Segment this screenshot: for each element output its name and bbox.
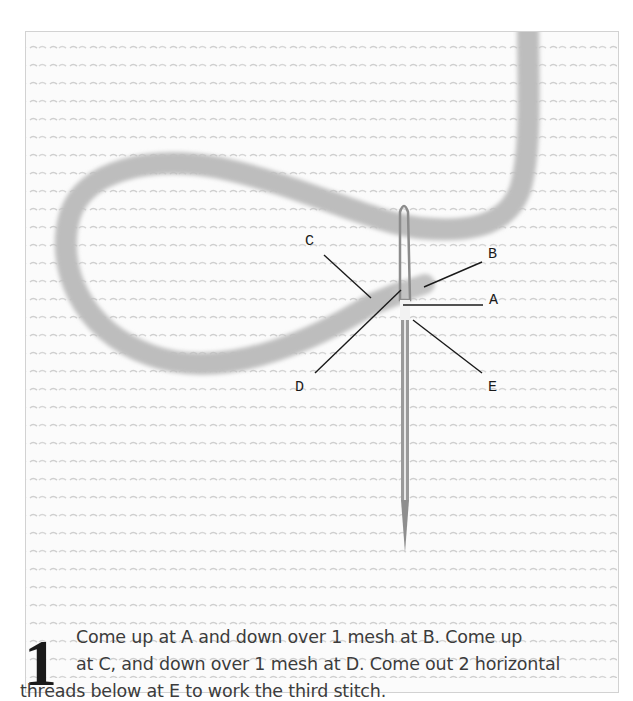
label-b: B — [488, 247, 497, 262]
label-e: E — [488, 380, 497, 395]
instruction-line-1: Come up at A and down over 1 mesh at B. … — [20, 624, 610, 651]
label-a: A — [489, 293, 498, 308]
instruction-line-3: threads below at E to work the third sti… — [20, 678, 610, 701]
label-c: C — [305, 234, 314, 249]
instruction-caption: Come up at A and down over 1 mesh at B. … — [20, 624, 610, 701]
instruction-line-2: at C, and down over 1 mesh at D. Come ou… — [20, 651, 610, 678]
label-d: D — [295, 380, 304, 395]
